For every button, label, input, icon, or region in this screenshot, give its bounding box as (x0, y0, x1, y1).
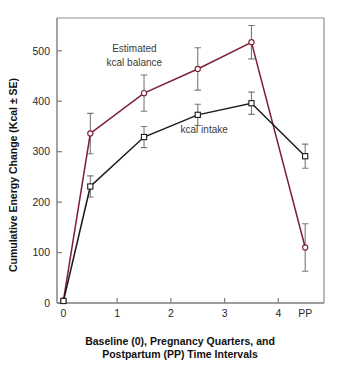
data-point-marker (61, 298, 66, 303)
y-tick-label: 400 (32, 95, 50, 107)
data-point-marker (141, 134, 146, 139)
x-axis-title-line2: Postpartum (PP) Time Intervals (102, 348, 258, 360)
data-point-marker (141, 91, 146, 96)
series-annotation-label: kcal intake (181, 124, 229, 135)
y-axis-title: Cumulative Energy Change (Kcal ± SE) (7, 78, 19, 272)
y-tick-label: 200 (32, 196, 50, 208)
x-tick-label: 0 (61, 307, 67, 319)
series-annotation-label: kcal balance (107, 57, 163, 68)
x-tick-label: 2 (168, 307, 174, 319)
data-point-marker (195, 112, 200, 117)
x-tick-label: PP (298, 307, 312, 319)
y-tick-label: 300 (32, 145, 50, 157)
data-point-marker (88, 131, 93, 136)
chart-figure: 0100200300400500 01234PP Estimatedkcal b… (0, 0, 342, 368)
x-tick-label: 4 (275, 307, 281, 319)
data-point-marker (249, 40, 254, 45)
y-tick-label: 0 (44, 297, 50, 309)
y-tick-label: 100 (32, 246, 50, 258)
data-point-marker (88, 184, 93, 189)
x-tick-label: 3 (222, 307, 228, 319)
y-tick-label: 500 (32, 45, 50, 57)
x-tick-label: 1 (114, 307, 120, 319)
data-point-marker (303, 245, 308, 250)
cumulative-energy-change-line-chart: 0100200300400500 01234PP Estimatedkcal b… (0, 0, 342, 368)
x-axis-title-line1: Baseline (0), Pregnancy Quarters, and (85, 335, 275, 347)
data-point-marker (303, 154, 308, 159)
series-annotation-label: Estimated (112, 43, 156, 54)
data-point-marker (195, 66, 200, 71)
data-point-marker (249, 101, 254, 106)
